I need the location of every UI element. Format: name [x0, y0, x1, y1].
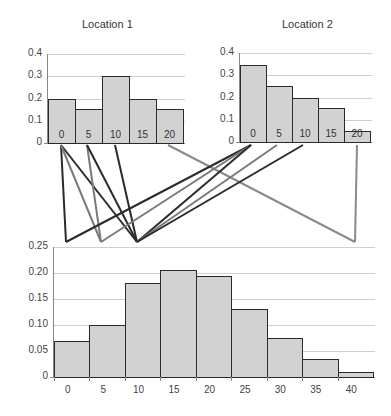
connector-line: [168, 145, 355, 242]
connector-line: [355, 145, 357, 242]
connector-lines: [0, 0, 391, 416]
connector-line: [101, 145, 251, 242]
connector-line: [137, 145, 303, 242]
connector-line: [61, 145, 66, 242]
